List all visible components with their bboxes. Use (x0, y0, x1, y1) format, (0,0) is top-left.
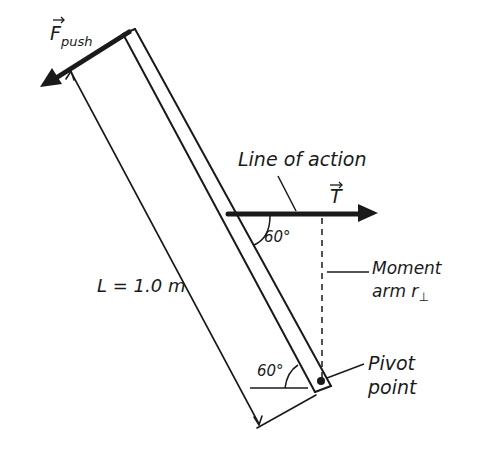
lever-bar (123, 29, 331, 392)
moment-arm-label-line1: Moment (372, 260, 442, 277)
pivot-label-line2: point (368, 378, 416, 397)
force-push-symbol: F (50, 22, 61, 44)
angle-arc-bottom (285, 365, 298, 388)
pivot-label-line1: Pivot (368, 354, 415, 373)
angle-top-label: 60° (264, 230, 291, 245)
moment-arm-subscript: ⊥ (418, 290, 428, 304)
moment-arm-text: arm r (372, 281, 418, 301)
tension-arrow-icon (228, 204, 378, 222)
force-push-subscript: push (61, 34, 93, 49)
angle-bottom-label: 60° (257, 364, 284, 379)
length-label: L = 1.0 m (97, 277, 185, 295)
line-of-action-label: Line of action (238, 150, 366, 169)
diagram-canvas: Fpush Line of action T 60° Moment arm r⊥… (0, 0, 478, 458)
tension-label: T (330, 187, 342, 206)
line-of-action-leader (278, 176, 296, 211)
pivot-dot-icon (317, 377, 325, 385)
pivot-leader (327, 364, 364, 378)
force-push-label: Fpush (50, 24, 92, 43)
moment-arm-label-line2: arm r⊥ (372, 283, 429, 300)
